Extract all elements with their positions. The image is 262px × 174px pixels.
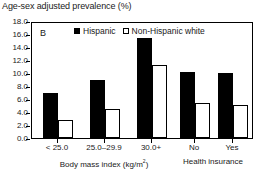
figure-panel-b: Age-sex adjusted prevalence (%) 18.016.0… bbox=[0, 0, 262, 174]
plot-area: B Hispanic Non-Hispanic white bbox=[31, 22, 253, 139]
bar-non-hispanic-white bbox=[152, 65, 167, 138]
y-axis: 18.016.014.012.010.08.06.04.02.00.0 bbox=[0, 16, 29, 146]
bar-hispanic bbox=[218, 73, 233, 138]
bar-non-hispanic-white bbox=[105, 109, 120, 138]
x-tick-label: < 25.0 bbox=[46, 143, 68, 152]
bar-non-hispanic-white bbox=[233, 105, 248, 138]
y-tick-mark bbox=[26, 22, 30, 23]
x-axis-title: Body mass index (kg/m2) bbox=[60, 157, 149, 169]
y-tick-mark bbox=[26, 113, 30, 114]
y-tick-mark bbox=[26, 139, 30, 140]
bar-hispanic bbox=[90, 80, 105, 138]
y-tick-mark bbox=[26, 87, 30, 88]
x-tick-label: Yes bbox=[225, 143, 238, 152]
x-axis-title-tail: ) bbox=[146, 160, 149, 169]
bar-series-container bbox=[32, 23, 252, 138]
x-tick-label: No bbox=[189, 143, 199, 152]
x-tick-label: 25.0–29.9 bbox=[86, 143, 122, 152]
bar-non-hispanic-white bbox=[58, 120, 73, 138]
bar-hispanic bbox=[43, 93, 58, 139]
y-tick-mark bbox=[26, 126, 30, 127]
bar-hispanic bbox=[137, 38, 152, 138]
figure-title: Age-sex adjusted prevalence (%) bbox=[2, 1, 131, 11]
bar-hispanic bbox=[180, 72, 195, 138]
bar-non-hispanic-white bbox=[195, 103, 210, 138]
y-tick-mark bbox=[26, 48, 30, 49]
y-tick-mark bbox=[26, 35, 30, 36]
x-axis-title: Health insurance bbox=[183, 157, 243, 166]
x-axis-title-text: Body mass index (kg/m bbox=[60, 160, 143, 169]
x-tick-label: 30.0+ bbox=[141, 143, 161, 152]
y-tick-mark bbox=[26, 61, 30, 62]
y-tick-mark bbox=[26, 100, 30, 101]
y-tick-mark bbox=[26, 74, 30, 75]
